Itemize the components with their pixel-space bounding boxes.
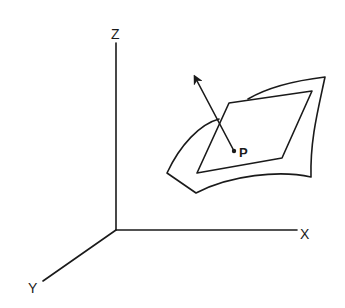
tangent-plane-outline bbox=[197, 91, 312, 173]
diagram-canvas: Z X Y P bbox=[0, 0, 345, 308]
normal-vector bbox=[196, 79, 234, 151]
diagram-svg: Z X Y P bbox=[0, 0, 345, 308]
z-axis-label: Z bbox=[111, 26, 120, 42]
curved-surface bbox=[167, 77, 325, 193]
normal-arrow bbox=[196, 79, 234, 151]
point-p-dot bbox=[232, 149, 236, 153]
point-p: P bbox=[232, 145, 248, 160]
y-axis-label: Y bbox=[28, 280, 38, 296]
x-axis-label: X bbox=[300, 226, 310, 242]
tangent-plane bbox=[197, 91, 312, 173]
surface-outline bbox=[167, 77, 325, 193]
y-axis bbox=[43, 230, 116, 281]
point-p-label: P bbox=[239, 145, 248, 160]
